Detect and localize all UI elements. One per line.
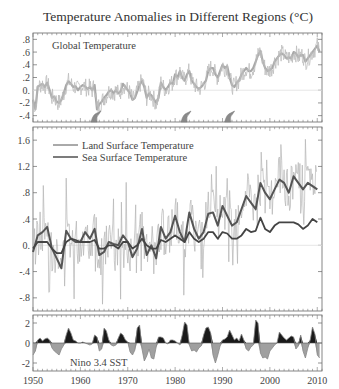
y-tick-label: 1.6 [18, 135, 31, 146]
y-tick-label: -.2 [19, 97, 30, 108]
x-tick-label: 2000 [260, 375, 280, 386]
chart-root: Temperature Anomalies in Different Regio… [0, 0, 339, 389]
land-temperature-monthly-line [33, 139, 317, 304]
y-tick-label: .8 [23, 187, 31, 198]
land-surface-temperature-line [33, 176, 317, 268]
panel-global-temperature: .8.6.4.20.-.2-.4Global Temperature [19, 33, 322, 122]
y-tick-label: .2 [23, 72, 31, 83]
y-tick-label: -.8 [19, 292, 30, 303]
y-tick-label: -2 [22, 358, 30, 369]
x-tick-label: 1990 [213, 375, 233, 386]
panel-label-nino: Nino 3.4 SST [70, 357, 128, 368]
panel-land-sea-temperature: 1.61.2.8.40.-.4-.8Land Surface Temperatu… [18, 127, 323, 311]
y-tick-label: 1.2 [18, 161, 31, 172]
sea-surface-temperature-line [33, 218, 317, 254]
panel-label-global: Global Temperature [52, 40, 136, 51]
x-tick-label: 2010 [307, 375, 327, 386]
panel-nino-sst: 20-2Nino 3.4 SST195019601970198019902000… [22, 315, 328, 386]
y-tick-label: 0 [25, 338, 30, 349]
y-tick-label: 0. [23, 240, 31, 251]
x-tick-label: 1970 [118, 375, 138, 386]
volcano-eruption-marker [225, 111, 235, 122]
y-tick-label: -.4 [19, 266, 30, 277]
x-tick-label: 1950 [23, 375, 43, 386]
x-tick-label: 1980 [165, 375, 185, 386]
temperature-anomalies-figure: Temperature Anomalies in Different Regio… [0, 0, 339, 389]
y-tick-label: 0. [23, 85, 31, 96]
y-tick-label: .6 [23, 47, 31, 58]
x-tick-label: 1960 [70, 375, 90, 386]
legend-label-sea: Sea Surface Temperature [82, 152, 188, 163]
y-tick-label: .4 [23, 59, 31, 70]
legend-label-land: Land Surface Temperature [82, 140, 194, 151]
chart-title: Temperature Anomalies in Different Regio… [43, 9, 313, 24]
y-tick-label: .4 [23, 214, 31, 225]
y-tick-label: -.4 [19, 110, 30, 121]
y-tick-label: 2 [25, 318, 30, 329]
y-tick-label: .8 [23, 34, 31, 45]
nino-positive-area [33, 320, 320, 343]
